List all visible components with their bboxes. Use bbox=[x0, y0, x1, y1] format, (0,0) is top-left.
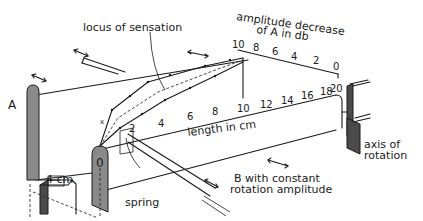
plate-0-label: 0 bbox=[96, 156, 104, 170]
len-tick-16: 16 bbox=[301, 90, 314, 101]
plate-a-label: A bbox=[8, 98, 17, 112]
db-tick-0: 0 bbox=[333, 61, 339, 72]
four-cm-label: 4 cm bbox=[46, 173, 73, 186]
length-label: length in cm bbox=[187, 118, 257, 139]
len-tick-6: 6 bbox=[187, 111, 193, 122]
db-tick-2: 2 bbox=[313, 55, 319, 66]
db-tick-8: 8 bbox=[253, 42, 259, 53]
b-label-2: rotation amplitude bbox=[230, 183, 332, 196]
len-tick-14: 14 bbox=[281, 95, 294, 106]
axis-label-2: rotation bbox=[364, 149, 407, 162]
len-tick-2: 2 bbox=[129, 123, 135, 134]
len-tick-20: 20 bbox=[330, 83, 343, 94]
len-tick-4: 4 bbox=[158, 118, 164, 129]
spring-label: spring bbox=[125, 196, 159, 209]
len-tick-10: 10 bbox=[237, 103, 250, 114]
db-tick-10: 10 bbox=[232, 39, 245, 50]
len-tick-12: 12 bbox=[260, 99, 273, 110]
diagram-labels: locus of sensation amplitude decrease of… bbox=[0, 0, 423, 221]
locus-label: locus of sensation bbox=[83, 21, 182, 34]
db-tick-4: 4 bbox=[291, 51, 297, 62]
len-tick-8: 8 bbox=[212, 106, 218, 117]
db-tick-6: 6 bbox=[272, 46, 278, 57]
